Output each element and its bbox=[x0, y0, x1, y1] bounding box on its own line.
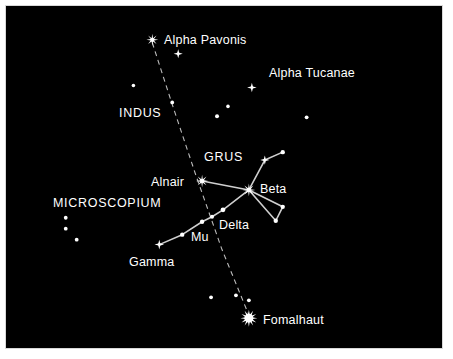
line-mu-chainb bbox=[182, 222, 202, 235]
line-beta-triright bbox=[249, 190, 283, 207]
dot-south-c-star-dot bbox=[247, 298, 251, 302]
pavonis-companion bbox=[174, 49, 183, 58]
line-alnair-beta bbox=[202, 181, 249, 190]
line-chainb-gamma bbox=[159, 235, 182, 245]
dot-chain-a-star-dot bbox=[210, 215, 214, 219]
dot-micro-a-star-dot bbox=[64, 216, 68, 220]
dot-right-edge-star-dot bbox=[305, 115, 309, 119]
dot-tuc-a-star-dot bbox=[226, 105, 230, 109]
dot-south-a-star-dot bbox=[209, 295, 213, 299]
alpha-tucanae-star bbox=[247, 83, 257, 93]
line-beta-north bbox=[249, 160, 265, 190]
beta-star bbox=[243, 184, 256, 197]
sky-canvas bbox=[6, 6, 442, 348]
beta-star-burst bbox=[243, 184, 256, 197]
dot-grus-ne-star-dot bbox=[281, 150, 285, 154]
dot-tuc-b-star-dot bbox=[215, 114, 219, 118]
dot-indus-a-star-dot bbox=[132, 84, 136, 88]
faint-stars-group bbox=[64, 84, 309, 302]
grus-upper-star-burst bbox=[260, 156, 269, 165]
dot-chain-b-star-dot bbox=[180, 232, 184, 236]
alpha-pavonis-star-burst bbox=[146, 34, 158, 46]
alpha-tucanae-star-burst bbox=[247, 83, 257, 93]
star-chart-root: Alpha PavonisAlpha TucanaeINDUSGRUSAlnai… bbox=[0, 0, 453, 359]
fomalhaut-star-burst bbox=[240, 310, 257, 327]
line-triright-tribottom bbox=[276, 207, 283, 221]
gamma-star bbox=[155, 240, 165, 250]
dot-micro-c-star-dot bbox=[75, 238, 79, 242]
line-north-ne bbox=[265, 152, 283, 160]
dot-south-b-star-dot bbox=[234, 293, 238, 297]
dot-delta-star-dot bbox=[221, 207, 226, 212]
dot-micro-b-star-dot bbox=[64, 227, 68, 231]
fomalhaut-star bbox=[240, 310, 257, 327]
pavonis-companion-burst bbox=[174, 49, 183, 58]
constellation-lines bbox=[159, 152, 282, 244]
dot-tri-right-star-dot bbox=[281, 205, 285, 209]
grus-upper-star bbox=[260, 156, 269, 165]
dot-tri-bottom-star-dot bbox=[274, 219, 278, 223]
dot-indus-b-star-dot bbox=[170, 101, 174, 105]
line-tribottom-beta bbox=[249, 190, 276, 221]
alpha-pavonis-star bbox=[146, 34, 158, 46]
alnair-star-burst bbox=[196, 175, 208, 187]
bright-stars-group bbox=[146, 34, 269, 327]
gamma-star-burst bbox=[155, 240, 165, 250]
dot-mu-star-dot bbox=[200, 220, 204, 224]
line-beta-delta bbox=[223, 190, 249, 210]
sky-panel: Alpha PavonisAlpha TucanaeINDUSGRUSAlnai… bbox=[5, 5, 443, 349]
alnair-star bbox=[196, 175, 208, 187]
